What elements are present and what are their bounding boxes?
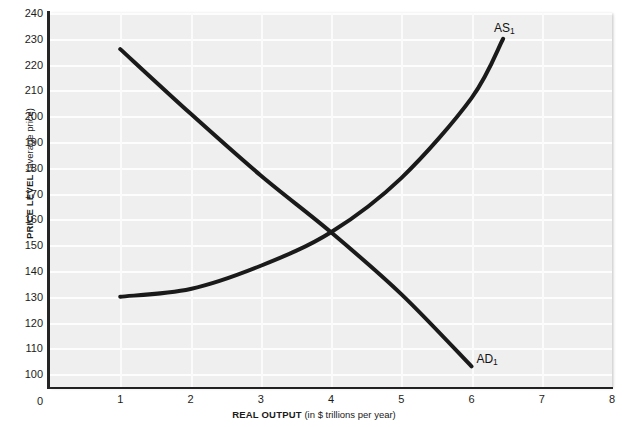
- curve-ad1: [120, 49, 471, 366]
- curve-as1: [120, 39, 503, 297]
- curve-label-as1: AS1: [494, 22, 515, 35]
- chart-figure: 1001101201301401501601701801902002102202…: [0, 0, 628, 427]
- curve-label-ad1: AD1: [476, 353, 497, 366]
- curve-label-subscript: 1: [493, 357, 498, 367]
- curve-label-subscript: 1: [510, 26, 515, 36]
- curve-layer: [0, 0, 628, 427]
- curve-label-text: AD: [476, 352, 493, 366]
- curve-label-text: AS: [494, 21, 510, 35]
